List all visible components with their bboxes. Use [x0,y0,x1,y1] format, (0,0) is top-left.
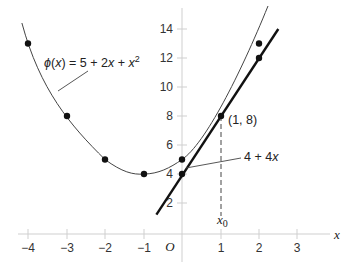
x-tick-label: −1 [137,241,151,255]
y-tick-label: 14 [160,22,174,36]
tangent-label: 4 + 4x [244,150,279,164]
x-tick-label: −4 [21,241,35,255]
tangent-label-leader [186,158,241,168]
data-point [102,156,108,162]
y-tick-label: 4 [166,167,173,181]
phi-label-leader [58,71,88,91]
origin-label: O [165,239,175,254]
x-tick-label: 2 [256,241,263,255]
x-tick-label: 3 [294,241,301,255]
data-point [64,113,70,119]
data-point [141,171,147,177]
x-axis-label: x [333,227,340,242]
y-tick-label: 8 [166,109,173,123]
x0-label: x0 [216,212,228,229]
x-tick-label: 1 [218,241,225,255]
x-tick-label: −3 [60,241,74,255]
data-point [179,156,185,162]
tangent-point-label: (1, 8) [228,113,257,127]
y-tick-label: 6 [166,138,173,152]
data-point [179,171,185,177]
y-tick-label: 12 [160,51,174,65]
data-point [256,40,262,46]
data-point [25,40,31,46]
plot-svg: −4 −3 −2 −1 1 2 3 O x 2 4 6 8 10 12 14 [0,0,350,276]
data-point [256,55,262,61]
curve-label: ϕ(x) = 5 + 2x + x2 [44,54,140,70]
y-tick-label: 10 [160,80,174,94]
tangent-point [218,113,224,119]
diagram-canvas: −4 −3 −2 −1 1 2 3 O x 2 4 6 8 10 12 14 [0,0,350,276]
x-tick-label: −2 [98,241,112,255]
